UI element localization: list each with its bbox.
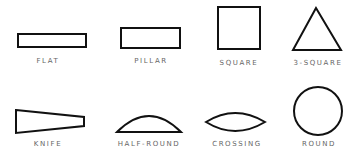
file-shapes-diagram: FLAT PILLAR SQUARE 3-SQUARE KNIFE HALF-R… — [0, 0, 359, 161]
shape-half-round: HALF-ROUND — [117, 116, 181, 148]
shape-knife: KNIFE — [16, 110, 84, 148]
shape-round: ROUND — [294, 87, 342, 148]
shape-square: SQUARE — [218, 7, 260, 67]
half-round-shape-icon — [117, 116, 181, 132]
label-square: SQUARE — [220, 59, 259, 67]
knife-shape-icon — [16, 110, 84, 133]
label-3-square: 3-SQUARE — [294, 59, 343, 67]
crossing-shape-icon — [206, 113, 265, 131]
label-round: ROUND — [302, 140, 336, 148]
label-knife: KNIFE — [34, 140, 62, 148]
pillar-shape-icon — [121, 28, 180, 48]
label-crossing: CROSSING — [212, 140, 262, 148]
shape-crossing: CROSSING — [206, 113, 265, 148]
label-pillar: PILLAR — [134, 57, 168, 65]
label-half-round: HALF-ROUND — [118, 140, 181, 148]
shape-flat: FLAT — [18, 34, 86, 65]
shape-pillar: PILLAR — [121, 28, 180, 65]
shape-3-square: 3-SQUARE — [293, 8, 342, 67]
round-shape-icon — [294, 87, 342, 135]
label-flat: FLAT — [36, 57, 59, 65]
triangle-shape-icon — [293, 8, 341, 50]
flat-shape-icon — [18, 34, 86, 47]
square-shape-icon — [218, 7, 260, 49]
